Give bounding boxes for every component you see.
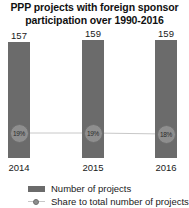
share-label-2016: 18% — [160, 131, 172, 138]
chart-legend: Number of projects Share to total number… — [28, 182, 189, 208]
plot-area: 157 159 159 19% 19% 18% — [0, 28, 189, 158]
share-marker-2014[interactable]: 19% — [10, 124, 29, 143]
share-marker-2015[interactable]: 19% — [84, 124, 103, 143]
axis-label-2016: 2016 — [155, 162, 176, 173]
share-marker-2016[interactable]: 18% — [157, 125, 176, 144]
legend-item-share-to-total[interactable]: Share to total number of projects — [28, 195, 189, 208]
chart-title-line-2: participation over 1990-2016 — [0, 14, 189, 27]
legend-label-share-to-total: Share to total number of projects — [51, 196, 189, 207]
chart-title-line-1: PPP projects with foreign sponsor — [0, 1, 189, 14]
bar-value-2016: 159 — [158, 28, 174, 39]
legend-label-number-of-projects: Number of projects — [51, 183, 131, 194]
axis-label-2014: 2014 — [8, 162, 29, 173]
chart-container: PPP projects with foreign sponsor partic… — [0, 0, 189, 208]
axis-label-2015: 2015 — [82, 162, 103, 173]
share-label-2015: 19% — [87, 130, 99, 137]
legend-circle-marker-icon — [28, 197, 45, 206]
bar-value-2015: 159 — [85, 28, 101, 39]
legend-bar-swatch-icon — [28, 186, 45, 192]
share-label-2014: 19% — [13, 130, 25, 137]
legend-item-number-of-projects[interactable]: Number of projects — [28, 182, 189, 195]
bar-value-2014: 157 — [11, 30, 27, 41]
chart-title: PPP projects with foreign sponsor partic… — [0, 1, 189, 26]
